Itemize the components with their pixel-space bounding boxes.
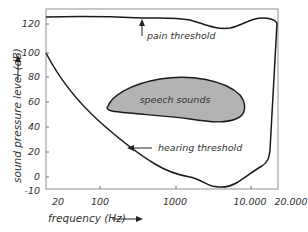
hearing-threshold-label: hearing threshold [158, 142, 243, 153]
speech-sounds-label: speech sounds [140, 94, 211, 105]
y-tick-label: 0 [34, 171, 40, 182]
y-axis-title: sound pressure level (dB) [11, 48, 23, 183]
y-axis-tick-labels: 120 100 80 60 40 20 0 -10 [22, 18, 40, 196]
x-tick-label: 10.000 [233, 196, 266, 207]
y-tick-label: -10 [24, 185, 40, 196]
chart: 120 100 80 60 40 20 0 -10 20 100 1000 10… [0, 0, 308, 232]
x-tick-label: 20 [52, 196, 64, 207]
x-tick-label: 20.000 [274, 196, 307, 207]
pain-threshold-label: pain threshold [146, 30, 216, 41]
y-tick-label: 80 [28, 71, 40, 82]
y-tick-label: 40 [28, 121, 40, 132]
y-tick-label: 20 [28, 146, 40, 157]
y-tick-label: 60 [28, 96, 40, 107]
hearing-threshold-arrow-icon [127, 145, 152, 151]
pain-threshold-curve [46, 17, 277, 29]
y-tick-label: 100 [22, 47, 40, 58]
x-axis-title: frequency (Hz) [48, 212, 126, 224]
x-axis-tick-labels: 20 100 1000 10.000 20.000 [52, 196, 308, 207]
pain-threshold-arrow-icon [139, 19, 145, 36]
y-tick-label: 120 [22, 18, 40, 29]
y-axis-ticks [46, 24, 49, 177]
x-tick-label: 1000 [163, 196, 187, 207]
x-tick-label: 100 [91, 196, 109, 207]
